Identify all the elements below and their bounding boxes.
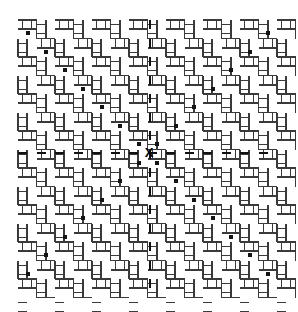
dot-marker [118,179,122,183]
emphasis-column-tick [149,168,151,177]
emphasis-row-tick [92,152,101,154]
emphasis-row-tick [259,152,268,154]
emphasis-column-tick [149,205,151,214]
emphasis-row-tick [18,152,27,154]
emphasis-column-tick [149,224,151,233]
dot-marker [26,31,30,35]
emphasis-column-tick [149,261,151,270]
dot-marker [192,198,196,202]
emphasis-row-tick [37,152,46,154]
emphasis-row-tick [74,152,83,154]
emphasis-row-tick [203,152,212,154]
emphasis-column-tick [149,279,151,288]
dot-marker [63,68,67,72]
dot-marker [118,124,122,128]
emphasis-row-tick [185,152,194,154]
emphasis-row-tick [222,152,231,154]
emphasis-row-tick [111,152,120,154]
dot-marker [100,105,104,109]
dot-marker [81,87,85,91]
dot-marker [248,50,252,54]
dot-marker [174,124,178,128]
dot-marker [248,253,252,257]
emphasis-column-tick [149,242,151,251]
emphasis-column-tick [149,57,151,66]
emphasis-column-tick [149,131,151,140]
emphasis-column-tick [149,113,151,122]
dot-marker [63,235,67,239]
dot-marker [229,235,233,239]
dot-marker [266,31,270,35]
dot-marker [211,216,215,220]
dot-marker [211,87,215,91]
dot-marker [26,272,30,276]
emphasis-row-tick [240,152,249,154]
emphasis-column-tick [149,39,151,48]
x-marker: X [136,146,162,159]
dot-marker [266,272,270,276]
emphasis-column-tick [149,187,151,196]
dot-marker [155,161,159,165]
dot-marker [44,50,48,54]
dot-marker [44,253,48,257]
weave-figure: X [0,0,298,312]
emphasis-column-tick [149,76,151,85]
dot-marker [229,68,233,72]
dot-marker [81,216,85,220]
emphasis-row-tick [55,152,64,154]
dot-marker [174,179,178,183]
emphasis-row-tick [166,152,175,154]
emphasis-column-tick [149,20,151,29]
dot-marker [137,161,141,165]
emphasis-column-tick [149,94,151,103]
dot-marker [192,105,196,109]
dot-marker [100,198,104,202]
